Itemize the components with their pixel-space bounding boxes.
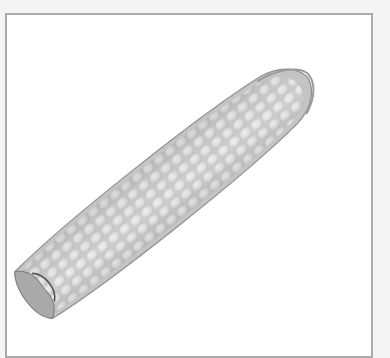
- corn-cob: [0, 41, 339, 334]
